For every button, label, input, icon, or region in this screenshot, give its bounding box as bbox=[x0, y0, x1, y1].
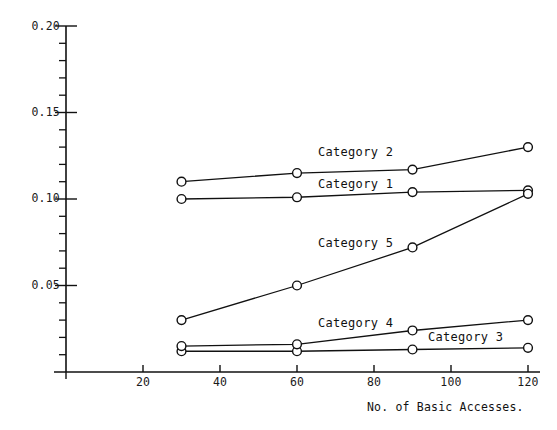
series-label-category-4: Category 4 bbox=[316, 316, 395, 330]
series-line-category-1 bbox=[182, 190, 529, 199]
x-tick-label-80: 80 bbox=[354, 375, 394, 389]
series-line-category-3 bbox=[182, 348, 529, 351]
data-point-marker bbox=[293, 340, 302, 349]
data-point-marker bbox=[177, 195, 186, 204]
series-line-category-5 bbox=[182, 194, 529, 320]
data-point-marker bbox=[293, 193, 302, 202]
data-point-marker bbox=[408, 165, 417, 174]
y-tick-label-0: 0.20 bbox=[8, 19, 60, 33]
x-tick-label-40: 40 bbox=[200, 375, 240, 389]
chart-plot-svg bbox=[0, 0, 557, 430]
x-axis-caption: No. of Basic Accesses. bbox=[367, 400, 524, 414]
series-label-category-3: Category 3 bbox=[426, 330, 505, 344]
data-point-marker bbox=[177, 342, 186, 351]
y-tick-label-2: 0.10 bbox=[8, 191, 60, 205]
data-point-marker bbox=[524, 316, 533, 325]
data-point-marker bbox=[408, 345, 417, 354]
x-tick-label-60: 60 bbox=[277, 375, 317, 389]
data-point-marker bbox=[408, 188, 417, 197]
x-tick-label-20: 20 bbox=[123, 375, 163, 389]
data-point-marker bbox=[177, 177, 186, 186]
series-label-category-2: Category 2 bbox=[316, 145, 395, 159]
data-point-marker bbox=[408, 243, 417, 252]
chart-container: 0.20 0.15 0.10 0.05 20 40 60 80 100 120 … bbox=[0, 0, 557, 430]
data-point-marker bbox=[293, 281, 302, 290]
data-point-marker bbox=[524, 189, 533, 198]
y-tick-label-3: 0.05 bbox=[8, 278, 60, 292]
x-tick-label-120: 120 bbox=[508, 375, 548, 389]
data-point-marker bbox=[408, 326, 417, 335]
data-point-marker bbox=[293, 169, 302, 178]
series-label-category-1: Category 1 bbox=[316, 177, 395, 191]
y-tick-label-1: 0.15 bbox=[8, 105, 60, 119]
x-tick-label-100: 100 bbox=[431, 375, 471, 389]
data-point-marker bbox=[524, 343, 533, 352]
data-point-marker bbox=[524, 143, 533, 152]
series-label-category-5: Category 5 bbox=[316, 236, 395, 250]
data-point-marker bbox=[177, 316, 186, 325]
